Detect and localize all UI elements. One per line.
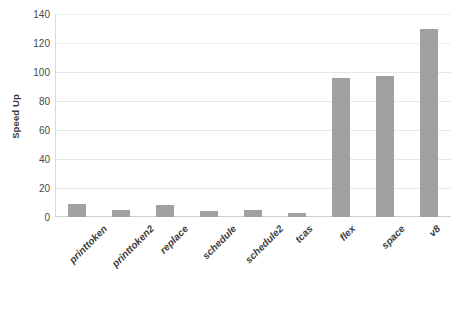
y-axis-tick-40: 40 xyxy=(39,154,50,165)
x-axis-tick-replace: replace xyxy=(158,223,191,256)
bar-schedule[interactable] xyxy=(200,211,218,217)
bar-printtoken2[interactable] xyxy=(112,210,130,217)
bar-printtoken[interactable] xyxy=(68,204,86,217)
bar-slot xyxy=(99,14,143,217)
x-label-slot: space xyxy=(363,219,407,289)
x-label-slot: replace xyxy=(143,219,187,289)
bar-slot xyxy=(143,14,187,217)
y-axis-title-text: Speed Up xyxy=(10,94,21,139)
bar-slot xyxy=(187,14,231,217)
bar-space[interactable] xyxy=(376,76,394,217)
x-label-slot: schedule2 xyxy=(231,219,275,289)
y-axis-tick-20: 20 xyxy=(39,183,50,194)
y-axis-tick-120: 120 xyxy=(33,38,50,49)
x-label-slot: tcas xyxy=(275,219,319,289)
x-axis-tick-v8: v8 xyxy=(427,223,443,239)
bar-slot xyxy=(55,14,99,217)
bar-schedule2[interactable] xyxy=(244,210,262,217)
x-label-slot: v8 xyxy=(407,219,451,289)
bar-flex[interactable] xyxy=(332,78,350,217)
bars-container xyxy=(55,14,451,217)
x-label-slot: printtoken xyxy=(55,219,99,289)
y-axis-tick-100: 100 xyxy=(33,67,50,78)
bar-tcas[interactable] xyxy=(288,213,306,217)
y-axis-tick-140: 140 xyxy=(33,9,50,20)
x-axis-tick-tcas: tcas xyxy=(293,223,315,245)
x-axis-tick-flex: flex xyxy=(337,223,357,243)
bar-chart: Speed Up 140120100806040200 printtokenpr… xyxy=(0,0,456,309)
bar-slot xyxy=(363,14,407,217)
bar-slot xyxy=(275,14,319,217)
x-label-slot: schedule xyxy=(187,219,231,289)
x-label-slot: printtoken2 xyxy=(99,219,143,289)
x-label-slot: flex xyxy=(319,219,363,289)
y-axis-tick-labels: 140120100806040200 xyxy=(22,14,50,217)
bar-slot xyxy=(407,14,451,217)
bar-v8[interactable] xyxy=(420,29,438,218)
bar-slot xyxy=(231,14,275,217)
plot-area xyxy=(55,14,451,217)
y-axis-tick-0: 0 xyxy=(44,212,50,223)
y-axis-tick-60: 60 xyxy=(39,125,50,136)
bar-replace[interactable] xyxy=(156,205,174,217)
y-axis-tick-80: 80 xyxy=(39,96,50,107)
x-axis-tick-space: space xyxy=(379,223,407,251)
x-axis-tick-labels: printtokenprinttoken2replaceschedulesche… xyxy=(55,219,451,289)
bar-slot xyxy=(319,14,363,217)
